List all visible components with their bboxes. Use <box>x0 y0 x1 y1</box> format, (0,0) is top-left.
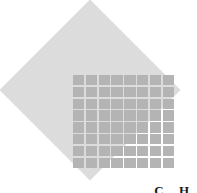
grid-cell <box>99 99 110 109</box>
grid-cell <box>124 146 135 156</box>
grid-cell <box>124 134 135 144</box>
grid-cell <box>86 75 97 85</box>
grid-cell <box>124 158 135 168</box>
grid-cell <box>111 99 122 109</box>
grid-cell <box>86 99 97 109</box>
grid-cell <box>99 134 110 144</box>
grid-cell <box>150 75 161 85</box>
grid-cell <box>150 122 161 132</box>
grid-cell <box>150 134 161 144</box>
grid-cell <box>86 158 97 168</box>
grid-cell <box>99 75 110 85</box>
grid-cell <box>73 122 84 132</box>
grid-cell <box>111 75 122 85</box>
grid-cell <box>163 110 174 120</box>
grid-cell <box>163 158 174 168</box>
grid-cell <box>73 87 84 97</box>
grid-cell <box>150 87 161 97</box>
grid-cell <box>137 122 148 132</box>
grid-cell <box>73 99 84 109</box>
grid-cell <box>99 122 110 132</box>
grid-cell <box>124 99 135 109</box>
grid-cell <box>111 110 122 120</box>
corner-label: C H <box>154 184 195 193</box>
grid-cell <box>137 87 148 97</box>
grid-cell <box>111 122 122 132</box>
grid-cell <box>163 99 174 109</box>
cell-grid <box>73 75 174 168</box>
grid-cell <box>86 87 97 97</box>
grid-cell <box>163 75 174 85</box>
grid-cell <box>137 99 148 109</box>
grid-cell <box>150 146 161 156</box>
grid-cell <box>99 146 110 156</box>
grid-cell <box>163 146 174 156</box>
grid-cell <box>86 122 97 132</box>
grid-cell <box>86 146 97 156</box>
grid-cell <box>73 75 84 85</box>
grid-cell <box>73 146 84 156</box>
grid-cell <box>137 146 148 156</box>
grid-cell <box>124 87 135 97</box>
grid-cell <box>86 134 97 144</box>
grid-cell <box>150 99 161 109</box>
grid-cell <box>163 122 174 132</box>
grid-cell <box>99 158 110 168</box>
grid-cell <box>150 110 161 120</box>
grid-cell <box>73 110 84 120</box>
grid-cell <box>137 134 148 144</box>
grid-cell <box>163 87 174 97</box>
grid-cell <box>111 87 122 97</box>
grid-cell <box>99 110 110 120</box>
grid-cell <box>137 75 148 85</box>
grid-cell <box>150 158 161 168</box>
grid-cell <box>86 110 97 120</box>
grid-cell <box>137 110 148 120</box>
grid-cell <box>111 158 122 168</box>
grid-cell <box>111 146 122 156</box>
figure-canvas: C H <box>0 0 197 193</box>
grid-cell <box>73 134 84 144</box>
grid-cell <box>99 87 110 97</box>
grid-cell <box>124 75 135 85</box>
grid-cell <box>124 122 135 132</box>
grid-cell <box>163 134 174 144</box>
grid-cell <box>137 158 148 168</box>
grid-cell <box>124 110 135 120</box>
grid-cell <box>73 158 84 168</box>
grid-cell <box>111 134 122 144</box>
